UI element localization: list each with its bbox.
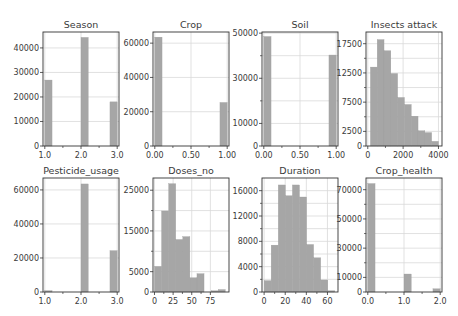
histogram-bar <box>368 184 375 292</box>
y-tick-label: 60000 <box>14 186 39 195</box>
histogram-bar <box>154 266 161 292</box>
subplot-title: Pesticide_usage <box>43 165 119 176</box>
x-tick-label: 2.0 <box>75 151 88 160</box>
x-tick-label: 50 <box>187 297 197 306</box>
y-tick-label: 8000 <box>238 237 258 246</box>
y-tick-label: 70000 <box>337 186 362 195</box>
x-tick-label: 1.00 <box>327 151 345 160</box>
subplot-title: Doses_no <box>168 165 214 176</box>
histogram-bar <box>169 184 176 292</box>
histogram-bar <box>433 289 440 292</box>
y-tick-label: 40000 <box>14 44 39 53</box>
x-tick-label: 3.0 <box>111 151 124 160</box>
histogram-bar <box>329 55 336 146</box>
histogram-bar <box>404 104 411 146</box>
histogram-bar <box>190 278 197 292</box>
x-tick-label: 60 <box>322 297 332 306</box>
y-tick-label: 40000 <box>124 73 149 82</box>
histogram-bar <box>110 102 117 146</box>
x-tick-label: 2.0 <box>75 297 88 306</box>
y-tick-label: 0 <box>253 288 258 297</box>
y-tick-label: 10000 <box>14 117 39 126</box>
histogram-grid-figure: 0100002000030000400001.02.03.0Season0200… <box>0 0 458 316</box>
x-tick-label: 40 <box>301 297 311 306</box>
x-tick-label: 20 <box>280 297 290 306</box>
y-tick-label: 40000 <box>14 220 39 229</box>
histogram-bar <box>278 185 285 292</box>
y-tick-label: 30000 <box>14 68 39 77</box>
subplot-title: Crop <box>180 19 202 30</box>
x-tick-label: 2.0 <box>434 297 447 306</box>
histogram-bar <box>411 116 418 146</box>
subplot-soil: 01000030000500000.000.501.00Soil <box>233 19 346 160</box>
x-tick-label: 1.00 <box>218 151 236 160</box>
subplot-crop-health: 0100003000050000700000.01.02.0Crop_healt… <box>337 165 447 306</box>
histogram-bar <box>45 80 52 146</box>
histogram-bar <box>271 245 278 292</box>
subplot-pesticide-usage: 02000040000600001.02.03.0Pesticide_usage <box>14 165 124 306</box>
histogram-bar <box>432 141 439 146</box>
y-tick-label: 20000 <box>124 108 149 117</box>
histogram-bar <box>307 245 314 293</box>
y-tick-label: 50000 <box>233 29 258 38</box>
y-tick-label: 10000 <box>233 119 258 128</box>
y-tick-label: 2500 <box>342 127 362 136</box>
y-tick-label: 4000 <box>238 263 258 272</box>
histogram-bar <box>321 280 328 292</box>
y-tick-label: 30000 <box>233 74 258 83</box>
histogram-bar <box>292 185 299 292</box>
subplot-title: Duration <box>279 165 320 176</box>
histogram-bar <box>377 40 384 146</box>
y-tick-label: 12500 <box>337 69 362 78</box>
histogram-bar <box>391 74 398 146</box>
histogram-bar <box>384 51 391 146</box>
histogram-bar <box>264 281 271 292</box>
x-tick-label: 75 <box>205 297 215 306</box>
histogram-bar <box>425 133 432 146</box>
y-tick-label: 0 <box>34 288 39 297</box>
histogram-bar <box>110 251 117 292</box>
subplot-doses-no: 0500015000250000255075Doses_no <box>124 165 229 306</box>
y-tick-label: 15000 <box>124 227 149 236</box>
y-tick-label: 0 <box>144 142 149 151</box>
x-tick-label: 0.50 <box>291 151 309 160</box>
histogram-bar <box>398 97 405 146</box>
histogram-bar <box>299 197 306 292</box>
x-tick-label: 1.0 <box>398 297 411 306</box>
y-tick-label: 17500 <box>337 40 362 49</box>
y-tick-label: 25000 <box>124 186 149 195</box>
subplot-duration: 04000800012000160000204060Duration <box>233 165 338 306</box>
histogram-bar <box>155 37 162 146</box>
histogram-bar <box>264 37 271 146</box>
histogram-bar <box>183 237 190 292</box>
y-tick-label: 16000 <box>233 187 258 196</box>
subplot-season: 0100002000030000400001.02.03.0Season <box>14 19 124 160</box>
subplot-title: Season <box>64 19 98 30</box>
y-tick-label: 10000 <box>337 273 362 282</box>
y-tick-label: 0 <box>357 288 362 297</box>
x-tick-label: 0.50 <box>182 151 200 160</box>
histogram-bar <box>220 102 227 146</box>
y-tick-label: 12000 <box>233 212 258 221</box>
y-tick-label: 20000 <box>14 93 39 102</box>
subplot-insects-attack: 0250075001250017500020004000Insects atta… <box>337 19 449 160</box>
histogram-bar <box>418 131 425 146</box>
histogram-bar <box>81 184 88 292</box>
histogram-bar <box>285 196 292 292</box>
y-tick-label: 0 <box>253 142 258 151</box>
histogram-bar <box>162 211 169 292</box>
x-tick-label: 25 <box>168 297 178 306</box>
y-tick-label: 7500 <box>342 98 362 107</box>
histogram-bar <box>81 37 88 146</box>
y-tick-label: 5000 <box>129 268 149 277</box>
x-tick-label: 3.0 <box>111 297 124 306</box>
histogram-bar <box>404 274 411 292</box>
y-tick-label: 0 <box>34 142 39 151</box>
x-tick-label: 0 <box>262 297 267 306</box>
y-tick-label: 0 <box>144 288 149 297</box>
subplot-crop: 02000040000600000.000.501.00Crop <box>124 19 237 160</box>
x-tick-label: 0.00 <box>146 151 164 160</box>
histogram-bar <box>176 239 183 292</box>
histogram-bar <box>197 274 204 292</box>
x-tick-label: 4000 <box>428 151 448 160</box>
